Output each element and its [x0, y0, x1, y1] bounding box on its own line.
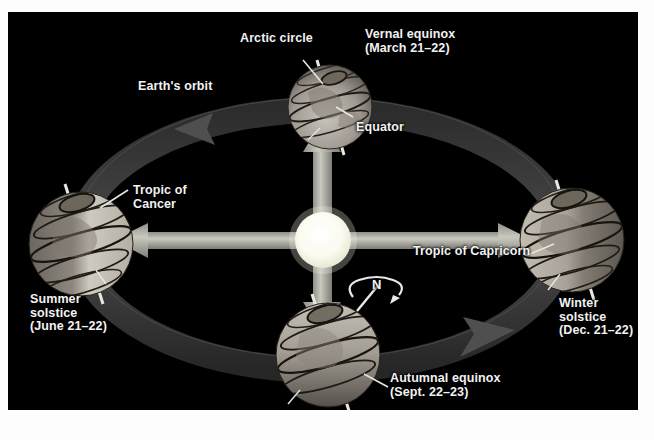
globe-vernal-equinox	[287, 58, 373, 155]
seasons-diagram	[8, 12, 638, 410]
sun	[289, 206, 357, 274]
light-beam-right	[332, 223, 532, 258]
globe-autumnal-equinox	[275, 293, 388, 410]
diagram-panel: Arctic circle Vernal equinox (March 21–2…	[8, 12, 638, 410]
globe-summer-solstice	[28, 182, 134, 304]
light-beam-left	[114, 223, 313, 258]
figure-root: Arctic circle Vernal equinox (March 21–2…	[0, 0, 654, 440]
earth-rotation-arrow	[350, 277, 402, 311]
